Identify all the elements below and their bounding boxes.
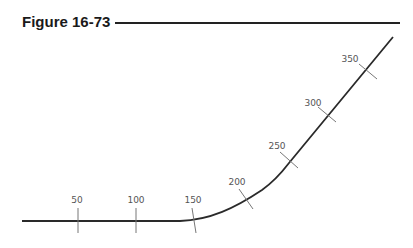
- alignment-diagram: 50 100 150 200 250 300 350: [0, 0, 413, 248]
- alignment-line: [22, 37, 393, 221]
- station-label-150: 150: [184, 195, 201, 205]
- station-label-250: 250: [268, 141, 285, 151]
- station-label-50: 50: [71, 195, 83, 205]
- station-label-200: 200: [228, 177, 245, 187]
- station-ticks: [78, 64, 377, 233]
- station-label-100: 100: [127, 195, 144, 205]
- station-label-350: 350: [341, 54, 358, 64]
- tick-200: [239, 189, 253, 209]
- station-label-300: 300: [304, 98, 321, 108]
